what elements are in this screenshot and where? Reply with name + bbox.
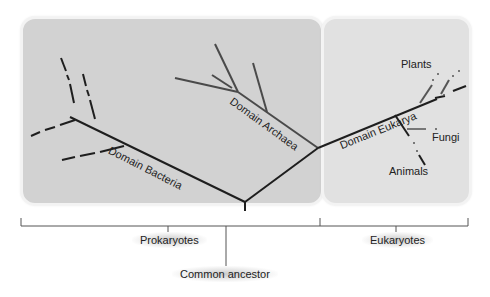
phylogenetic-tree — [0, 0, 490, 297]
bacteria-branch — [31, 58, 245, 211]
prokaryotes-label: Prokaryotes — [132, 232, 207, 248]
eukaryotes-label: Eukaryotes — [362, 232, 433, 248]
animals-label: Animals — [389, 165, 428, 177]
animals-branch — [419, 155, 425, 165]
fungi-label: Fungi — [432, 131, 460, 143]
common-ancestor-label: Common ancestor — [172, 266, 278, 282]
archaea-branch — [175, 44, 318, 148]
plants-label: Plants — [401, 58, 432, 70]
